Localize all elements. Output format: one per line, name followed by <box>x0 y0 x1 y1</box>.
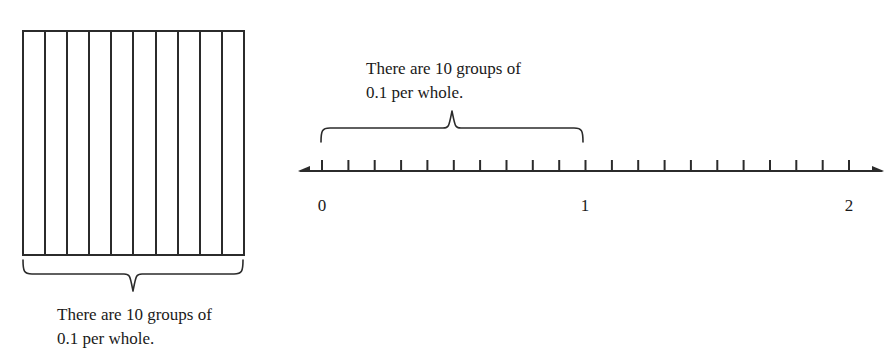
area-model-caption: There are 10 groups of 0.1 per whole. <box>57 303 307 351</box>
tenths-grid <box>22 30 245 256</box>
tick-label-2: 2 <box>845 196 854 216</box>
tick-group <box>322 160 849 172</box>
axis-arrow-right <box>872 166 884 172</box>
tick-label-0: 0 <box>318 196 327 216</box>
brace-under-rectangle <box>20 258 247 294</box>
area-model-rectangle <box>22 30 245 256</box>
axis-arrow-left <box>298 166 310 172</box>
math-figure: There are 10 groups of 0.1 per whole. Th… <box>0 0 894 364</box>
number-line-caption: There are 10 groups of 0.1 per whole. <box>366 57 616 105</box>
tick-label-1: 1 <box>581 196 590 216</box>
number-line-axis <box>292 108 888 172</box>
axis-tick-labels: 0 1 2 <box>0 196 894 222</box>
